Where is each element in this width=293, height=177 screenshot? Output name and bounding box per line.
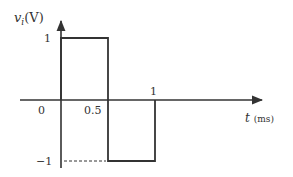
- y-tick-minus1: −1: [36, 155, 52, 168]
- x-axis-label: t(ms): [245, 111, 274, 125]
- y-axis-label: vi(V): [14, 10, 44, 27]
- x-tick-0: 0: [38, 104, 45, 117]
- x-tick-1: 1: [150, 85, 157, 98]
- x-tick-0-5: 0.5: [84, 104, 102, 117]
- waveform-diagram: vi(V) 1 −1 0 0.5 1 t(ms): [0, 0, 293, 177]
- y-tick-1: 1: [44, 32, 51, 45]
